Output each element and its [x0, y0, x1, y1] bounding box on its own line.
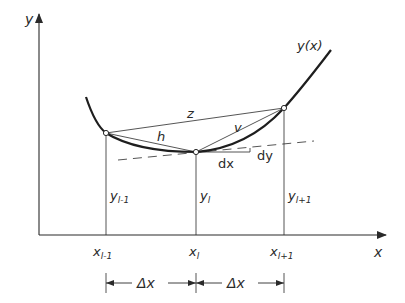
dx-label: dx: [218, 156, 234, 171]
node-cur: [193, 149, 198, 154]
ordinate-next-label: yl+1: [287, 188, 311, 205]
chord-z-label: z: [186, 106, 195, 121]
x-axis-label: x: [373, 244, 383, 260]
curve-label: y(x): [296, 38, 323, 53]
delta-x-right-label: Δx: [226, 275, 246, 291]
node-next: [281, 105, 286, 110]
dy-label: dy: [257, 148, 273, 163]
finite-difference-diagram: y x y(x) z h v dx dy yl-1 yl yl+1 xl-1 x…: [0, 0, 405, 303]
abscissa-cur-label: xl: [188, 244, 200, 261]
ordinate-cur-label: yl: [199, 188, 211, 205]
abscissa-prev-label: xl-1: [92, 244, 112, 261]
chord-v-label: v: [234, 120, 242, 135]
chord-z: [106, 108, 284, 133]
ordinate-prev-label: yl-1: [109, 188, 129, 205]
delta-x-left-label: Δx: [136, 275, 156, 291]
tangent-line: [118, 141, 314, 160]
chord-h-label: h: [157, 129, 165, 144]
node-prev: [103, 130, 108, 135]
y-axis-label: y: [24, 11, 34, 27]
diagram-canvas: y x y(x) z h v dx dy yl-1 yl yl+1 xl-1 x…: [0, 0, 405, 303]
abscissa-next-label: xl+1: [269, 244, 293, 261]
